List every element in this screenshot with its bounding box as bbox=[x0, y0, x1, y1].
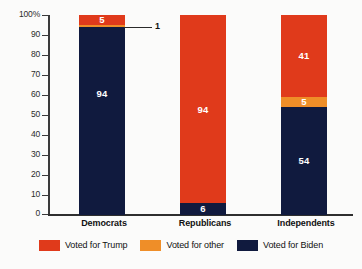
y-tick-label-80: 80 bbox=[4, 50, 40, 59]
y-tick-label-30-wrap: 30 bbox=[0, 150, 40, 160]
segment-republicans-biden[interactable]: 6 bbox=[180, 203, 226, 215]
segment-democrats-trump[interactable]: 5 bbox=[79, 15, 125, 25]
chart-legend: Voted for Trump Voted for other Voted fo… bbox=[0, 240, 362, 251]
y-tick-label-90-wrap: 90 bbox=[0, 30, 40, 40]
y-tick-label-30: 30 bbox=[4, 150, 40, 159]
segment-label-democrats-trump: 5 bbox=[99, 15, 104, 25]
y-tick-label-40: 40 bbox=[4, 130, 40, 139]
stacked-bar-chart: 100% 90 80 70 60 50 40 30 bbox=[0, 0, 362, 269]
y-tick-label-100-wrap: 100% bbox=[0, 10, 40, 20]
callout-label-democrats-other: 1 bbox=[155, 22, 160, 31]
segment-label-democrats-biden: 94 bbox=[97, 89, 108, 99]
category-label-democrats: Democrats bbox=[49, 218, 159, 228]
legend-item-other[interactable]: Voted for other bbox=[140, 240, 224, 251]
y-tick-label-0: 0 bbox=[4, 209, 40, 218]
y-tick-label-0-wrap: 0 bbox=[0, 209, 40, 219]
segment-label-republicans-trump: 94 bbox=[198, 105, 209, 115]
legend-label-biden: Voted for Biden bbox=[263, 241, 323, 250]
segment-label-independents-biden: 54 bbox=[299, 156, 310, 166]
y-tick-label-60: 60 bbox=[4, 90, 40, 99]
legend-item-trump[interactable]: Voted for Trump bbox=[39, 240, 128, 251]
legend-label-trump: Voted for Trump bbox=[65, 241, 128, 250]
bar-democrats[interactable]: 5 94 bbox=[79, 15, 125, 215]
y-tick-label-20: 20 bbox=[4, 170, 40, 179]
segment-independents-trump[interactable]: 41 bbox=[281, 15, 327, 97]
legend-label-other: Voted for other bbox=[166, 241, 224, 250]
y-tick-label-50: 50 bbox=[4, 110, 40, 119]
y-tick-label-100: 100% bbox=[4, 10, 40, 19]
category-label-republicans: Republicans bbox=[150, 218, 260, 228]
y-tick-label-60-wrap: 60 bbox=[0, 90, 40, 100]
segment-label-republicans-biden: 6 bbox=[200, 204, 205, 214]
segment-independents-other[interactable]: 5 bbox=[281, 97, 327, 107]
segment-label-independents-other: 5 bbox=[301, 97, 306, 107]
y-tick-label-70: 70 bbox=[4, 70, 40, 79]
y-tick-label-40-wrap: 40 bbox=[0, 130, 40, 140]
y-tick-label-20-wrap: 20 bbox=[0, 170, 40, 180]
legend-item-biden[interactable]: Voted for Biden bbox=[237, 240, 323, 251]
y-tick-label-70-wrap: 70 bbox=[0, 70, 40, 80]
bar-republicans[interactable]: 94 6 bbox=[180, 15, 226, 215]
category-label-independents: Independents bbox=[251, 218, 361, 228]
segment-republicans-trump[interactable]: 94 bbox=[180, 15, 226, 203]
segment-label-independents-trump: 41 bbox=[299, 51, 310, 61]
legend-swatch-biden bbox=[237, 240, 258, 251]
y-tick-label-10: 10 bbox=[4, 190, 40, 199]
bar-independents[interactable]: 41 5 54 bbox=[281, 15, 327, 215]
y-tick-label-10-wrap: 10 bbox=[0, 190, 40, 200]
y-tick-label-90: 90 bbox=[4, 30, 40, 39]
y-tick-label-50-wrap: 50 bbox=[0, 110, 40, 120]
segment-democrats-biden[interactable]: 94 bbox=[79, 27, 125, 215]
legend-swatch-other bbox=[140, 240, 161, 251]
legend-swatch-trump bbox=[39, 240, 60, 251]
segment-independents-biden[interactable]: 54 bbox=[281, 107, 327, 215]
y-tick-label-80-wrap: 80 bbox=[0, 50, 40, 60]
plot-area: 5 94 94 6 41 5 54 bbox=[48, 15, 348, 215]
callout-leader-line bbox=[124, 27, 152, 28]
